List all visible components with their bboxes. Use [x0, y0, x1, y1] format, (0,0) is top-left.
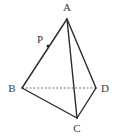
vertex-label-a: A [63, 1, 71, 13]
vertex-label-b: B [8, 82, 15, 94]
vertex-label-d: D [101, 82, 109, 94]
point-p-marker [47, 45, 50, 48]
edge-bc [22, 88, 77, 118]
edge-cd [77, 88, 96, 118]
edge-ac [67, 19, 77, 118]
vertex-label-c: C [73, 122, 80, 134]
point-label-p: P [37, 33, 43, 45]
edge-ab [22, 19, 67, 88]
edge-ad [67, 19, 96, 88]
geometry-figure: A B C D P [0, 0, 113, 137]
tetrahedron-diagram: A B C D P [0, 0, 113, 137]
